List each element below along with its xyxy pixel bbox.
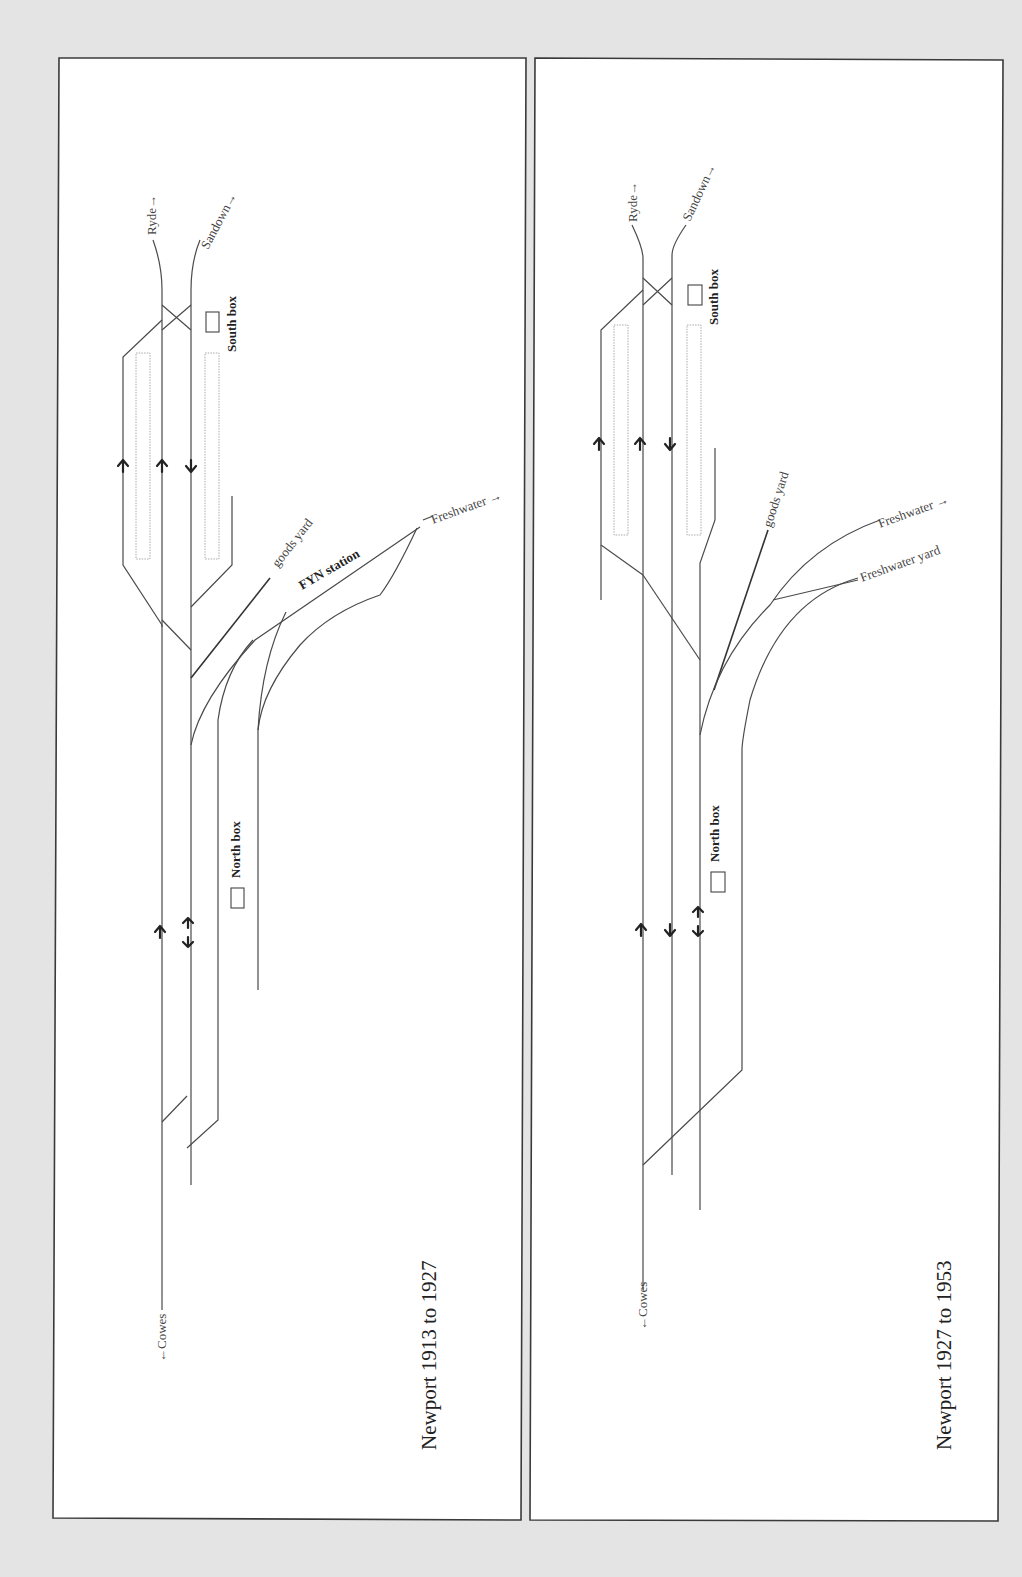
panel-title: Newport 1927 to 1953: [932, 1260, 956, 1450]
track-diagram-stage: Ryde→ Sandown→ South box goods yard FYN …: [0, 0, 1022, 1577]
panel-1927-1953: Ryde→ Sandown→ South box goods yard Fres…: [530, 58, 1003, 1521]
label-cowes: ←Cowes: [154, 1314, 169, 1362]
label-north-box: North box: [228, 821, 243, 878]
panel-1913-1927: Ryde→ Sandown→ South box goods yard FYN …: [53, 58, 526, 1520]
panel-title: Newport 1913 to 1927: [417, 1260, 441, 1450]
south-signal-box: [688, 285, 702, 305]
label-cowes: ←Cowes: [635, 1282, 650, 1330]
north-signal-box: [231, 888, 244, 908]
label-ryde: Ryde→: [625, 182, 640, 222]
panel-frame: [53, 58, 526, 1520]
label-north-box: North box: [707, 805, 722, 862]
label-south-box: South box: [224, 296, 239, 352]
north-signal-box: [711, 872, 725, 892]
label-south-box: South box: [706, 269, 721, 325]
south-signal-box: [206, 312, 219, 332]
label-ryde: Ryde→: [144, 195, 159, 235]
